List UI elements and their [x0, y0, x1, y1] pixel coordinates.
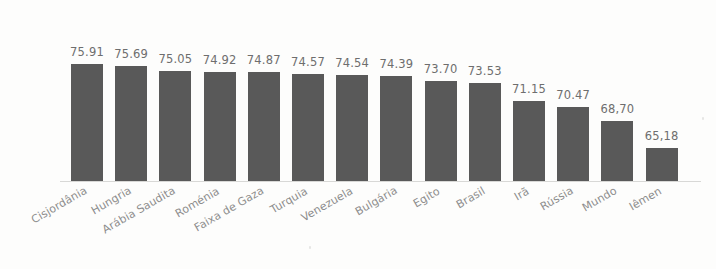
bar-group: 73.53: [469, 0, 501, 181]
plot-area: 75.9175.6975.0574.9274.8774.5774.5474.39…: [0, 0, 716, 181]
category-label: Irã: [512, 184, 531, 203]
bar-value-label: 65,18: [645, 129, 679, 143]
bar-group: 73.70: [425, 0, 457, 181]
bar-group: 75.91: [71, 0, 103, 181]
bar-group: 74.39: [380, 0, 412, 181]
bar: [469, 83, 501, 181]
bar-group: 68,70: [601, 0, 633, 181]
bar-chart: 75.9175.6975.0574.9274.8774.5774.5474.39…: [0, 0, 716, 269]
category-label: Cisjordânia: [29, 184, 89, 226]
bar-group: 74.92: [204, 0, 236, 181]
bar-value-label: 70.47: [556, 88, 590, 102]
bar-value-label: 74.92: [203, 53, 237, 67]
bar: [159, 71, 191, 181]
bar-value-label: 73.53: [468, 64, 502, 78]
bar-group: 74.54: [336, 0, 368, 181]
scan-speck: [309, 246, 311, 249]
bar: [646, 148, 678, 181]
bar-value-label: 75.05: [158, 52, 192, 66]
bar-group: 74.87: [248, 0, 280, 181]
category-label: Brasil: [454, 184, 488, 211]
bar-value-label: 74.39: [379, 57, 413, 71]
bar: [71, 64, 103, 181]
bar-group: 75.69: [115, 0, 147, 181]
bar: [513, 101, 545, 181]
bar: [248, 72, 280, 181]
bar-value-label: 74.57: [291, 55, 325, 69]
category-label: Mundo: [580, 184, 619, 214]
bar-value-label: 75.69: [114, 47, 148, 61]
bar-group: 70.47: [557, 0, 589, 181]
bar-group: 74.57: [292, 0, 324, 181]
bar-value-label: 73.70: [424, 62, 458, 76]
category-label: Venezuela: [299, 184, 355, 224]
bar: [115, 66, 147, 181]
bar-value-label: 71.15: [512, 82, 546, 96]
bar: [425, 81, 457, 181]
bar-group: 75.05: [159, 0, 191, 181]
category-label: Bulgária: [353, 184, 400, 218]
bar: [601, 121, 633, 181]
bar-group: 65,18: [646, 0, 678, 181]
bar-value-label: 68,70: [600, 102, 634, 116]
scan-speck: [702, 117, 704, 120]
category-label: Iêmen: [627, 184, 664, 213]
x-axis-baseline: [60, 181, 701, 182]
bar-value-label: 75.91: [70, 45, 104, 59]
bar: [336, 75, 368, 181]
bar: [557, 107, 589, 181]
category-label: Rússia: [538, 184, 576, 213]
bar-group: 71.15: [513, 0, 545, 181]
bar-value-label: 74.54: [335, 56, 369, 70]
bar: [380, 76, 412, 181]
bar: [292, 74, 324, 181]
bar-value-label: 74.87: [247, 53, 281, 67]
category-label: Egito: [411, 184, 442, 210]
bar: [204, 72, 236, 181]
